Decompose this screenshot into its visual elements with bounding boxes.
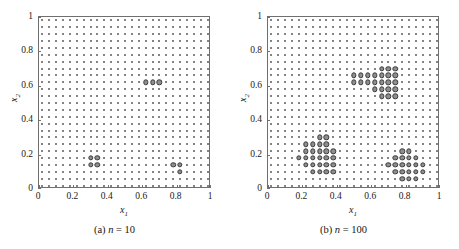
candidate-point — [408, 47, 410, 49]
candidate-point — [346, 123, 348, 125]
candidate-point — [158, 54, 160, 56]
candidate-point — [96, 40, 98, 42]
candidate-point — [394, 61, 396, 63]
candidate-point — [55, 88, 57, 90]
candidate-point — [152, 47, 154, 49]
candidate-point — [200, 109, 202, 111]
candidate-point — [138, 171, 140, 173]
candidate-point — [401, 102, 403, 104]
candidate-point — [408, 116, 410, 118]
candidate-point — [360, 157, 362, 159]
candidate-point — [284, 33, 286, 35]
candidate-point — [305, 54, 307, 56]
candidate-point — [387, 19, 389, 21]
candidate-point — [124, 47, 126, 49]
candidate-point — [339, 164, 341, 166]
candidate-point — [207, 81, 209, 83]
candidate-point — [436, 102, 438, 104]
candidate-point — [124, 26, 126, 28]
candidate-point — [90, 88, 92, 90]
candidate-point — [76, 26, 78, 28]
selected-design-point — [324, 148, 329, 153]
candidate-point — [165, 116, 167, 118]
candidate-point — [193, 19, 195, 21]
candidate-point — [200, 74, 202, 76]
x-tick-mark — [108, 185, 109, 188]
candidate-point — [270, 185, 272, 187]
candidate-point — [83, 40, 85, 42]
candidate-point — [207, 157, 209, 159]
x-tick-label: 0.8 — [399, 191, 411, 201]
candidate-point — [422, 150, 424, 152]
candidate-point — [83, 136, 85, 138]
candidate-point — [172, 54, 174, 56]
candidate-point — [374, 54, 376, 56]
candidate-point — [207, 95, 209, 97]
candidate-point — [374, 33, 376, 35]
candidate-point — [387, 178, 389, 180]
candidate-point — [200, 61, 202, 63]
candidate-point — [312, 123, 314, 125]
candidate-point — [186, 102, 188, 104]
candidate-point — [207, 47, 209, 49]
candidate-point — [270, 61, 272, 63]
candidate-point — [367, 116, 369, 118]
candidate-point — [408, 33, 410, 35]
candidate-point — [339, 74, 341, 76]
selected-design-point — [399, 176, 404, 181]
candidate-point — [62, 130, 64, 132]
candidate-point — [145, 88, 147, 90]
candidate-point — [429, 136, 431, 138]
candidate-point — [374, 116, 376, 118]
candidate-point — [48, 136, 50, 138]
candidate-point — [312, 81, 314, 83]
candidate-point — [394, 40, 396, 42]
candidate-point — [408, 109, 410, 111]
candidate-point — [193, 109, 195, 111]
candidate-point — [145, 54, 147, 56]
candidate-point — [179, 54, 181, 56]
candidate-point — [312, 19, 314, 21]
candidate-point — [291, 81, 293, 83]
candidate-point — [394, 54, 396, 56]
candidate-point — [83, 130, 85, 132]
candidate-point — [152, 74, 154, 76]
candidate-point — [200, 19, 202, 21]
candidate-point — [360, 178, 362, 180]
candidate-point — [152, 150, 154, 152]
candidate-point — [367, 88, 369, 90]
candidate-point — [284, 116, 286, 118]
candidate-point — [110, 19, 112, 21]
candidate-point — [305, 68, 307, 70]
candidate-point — [96, 33, 98, 35]
candidate-point — [172, 81, 174, 83]
candidate-point — [110, 116, 112, 118]
candidate-point — [305, 130, 307, 132]
candidate-point — [117, 123, 119, 125]
candidate-point — [298, 40, 300, 42]
candidate-point — [152, 19, 154, 21]
selected-design-point — [393, 155, 398, 160]
candidate-point — [401, 130, 403, 132]
candidate-point — [408, 88, 410, 90]
candidate-point — [207, 74, 209, 76]
candidate-point — [374, 19, 376, 21]
x-tick-mark — [337, 185, 338, 188]
candidate-point — [158, 33, 160, 35]
candidate-point — [179, 150, 181, 152]
candidate-point — [332, 26, 334, 28]
candidate-point — [319, 19, 321, 21]
candidate-point — [312, 88, 314, 90]
candidate-point — [186, 88, 188, 90]
candidate-point — [429, 178, 431, 180]
candidate-point — [76, 54, 78, 56]
candidate-point — [305, 185, 307, 187]
candidate-point — [353, 130, 355, 132]
candidate-point — [90, 102, 92, 104]
candidate-point — [165, 102, 167, 104]
candidate-point — [298, 164, 300, 166]
candidate-point — [360, 95, 362, 97]
candidate-point — [110, 123, 112, 125]
candidate-point — [62, 109, 64, 111]
candidate-point — [193, 178, 195, 180]
